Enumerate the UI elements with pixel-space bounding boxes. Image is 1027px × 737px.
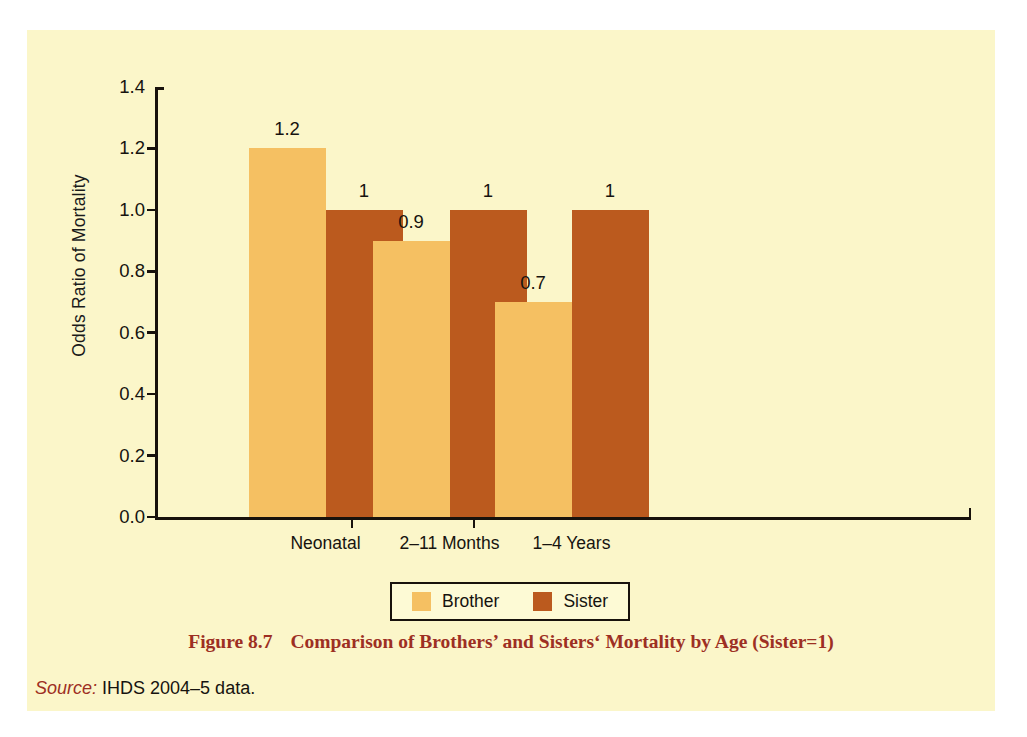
bar-value-label: 1: [572, 180, 649, 202]
figure-caption-title: Comparison of Brothers’ and Sisters‘ Mor…: [290, 631, 833, 652]
y-tick-label: 0.4: [99, 383, 145, 405]
legend-entry-brother: Brother: [412, 591, 499, 612]
legend-swatch-sister-icon: [533, 592, 552, 611]
y-tick-mark: [147, 209, 156, 212]
y-tick-label: 0.6: [99, 322, 145, 344]
bar-value-label: 0.7: [495, 272, 572, 294]
bar-brother-0: [249, 148, 326, 517]
bar-value-label: 1: [450, 180, 527, 202]
source-text: IHDS 2004–5 data.: [97, 678, 255, 698]
legend-entry-sister: Sister: [533, 591, 608, 612]
bar-brother-2: [495, 302, 572, 517]
legend-label-sister: Sister: [563, 591, 608, 612]
y-tick-label: 1.2: [99, 137, 145, 159]
figure-source-line: Source: IHDS 2004–5 data.: [35, 678, 255, 699]
bar-value-label: 1.2: [249, 118, 326, 140]
legend-label-brother: Brother: [442, 591, 499, 612]
legend-swatch-brother-icon: [412, 592, 431, 611]
y-tick-label: 1.0: [99, 199, 145, 221]
y-axis-tick-labels: 1.41.21.00.80.60.40.20.0: [99, 30, 145, 530]
y-tick-mark: [147, 393, 156, 396]
bars-layer: [158, 87, 971, 517]
y-tick-label: 1.4: [99, 76, 145, 98]
y-tick-label: 0.2: [99, 445, 145, 467]
x-axis-line: [155, 517, 971, 520]
bar-sister-2: [572, 210, 649, 517]
x-tick-mark: [351, 517, 354, 528]
figure-caption-number: Figure 8.7: [188, 631, 272, 652]
y-tick-mark: [147, 516, 156, 519]
bar-value-label: 1: [326, 180, 403, 202]
y-tick-mark: [147, 331, 156, 334]
x-tick-mark: [473, 517, 476, 528]
y-tick-label: 0.0: [99, 506, 145, 528]
y-tick-mark: [147, 147, 156, 150]
y-tick-mark: [147, 454, 156, 457]
y-tick-label: 0.8: [99, 260, 145, 282]
figure-caption: Figure 8.7Comparison of Brothers’ and Si…: [27, 631, 995, 653]
y-axis-title: Odds Ratio of Mortality: [69, 116, 90, 416]
source-label: Source:: [35, 678, 97, 698]
bar-value-label: 0.9: [373, 211, 450, 233]
y-tick-mark: [147, 270, 156, 273]
x-category-label: 1–4 Years: [462, 533, 682, 554]
bar-brother-1: [373, 241, 450, 517]
chart-legend: Brother Sister: [390, 582, 630, 621]
chart-plot-area: Odds Ratio of Mortality 1.41.21.00.80.60…: [27, 30, 995, 530]
figure-panel: Odds Ratio of Mortality 1.41.21.00.80.60…: [27, 30, 995, 711]
